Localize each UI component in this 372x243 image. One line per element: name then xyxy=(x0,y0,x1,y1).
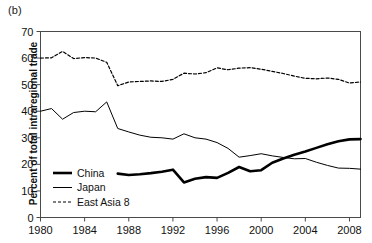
panel-label: (b) xyxy=(8,4,22,16)
y-axis-title: Percent of total intraregional trade xyxy=(28,29,39,219)
series-line-east-asia-8 xyxy=(41,51,361,85)
x-tick-label: 1996 xyxy=(205,224,229,236)
chart-figure: (b) Percent of total intraregional trade… xyxy=(0,0,372,243)
legend-label-east-asia-8: East Asia 8 xyxy=(77,196,130,208)
x-tick-label: 2004 xyxy=(293,224,317,236)
line-chart-plot: 010203040506070 198019841988199219962000… xyxy=(0,0,372,243)
x-tick-label: 1980 xyxy=(28,224,52,236)
series-line-china xyxy=(118,139,361,182)
data-series-group xyxy=(41,51,361,182)
x-axis-ticks: 19801984198819921996200020042008 xyxy=(28,218,361,236)
x-tick-label: 1992 xyxy=(161,224,185,236)
x-tick-label: 1984 xyxy=(72,224,96,236)
x-tick-label: 2008 xyxy=(337,224,361,236)
x-tick-label: 2000 xyxy=(249,224,273,236)
legend-label-japan: Japan xyxy=(77,181,106,193)
series-line-japan xyxy=(41,102,361,169)
legend-label-china: China xyxy=(77,167,105,179)
x-tick-label: 1988 xyxy=(117,224,141,236)
